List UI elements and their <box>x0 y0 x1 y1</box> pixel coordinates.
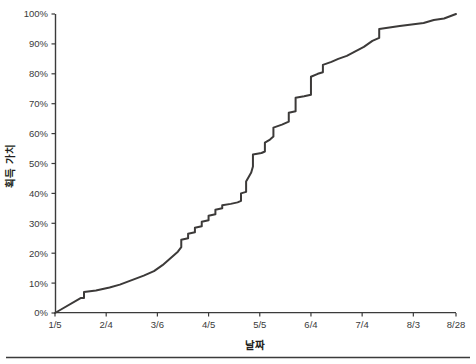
y-tick-label: 60% <box>29 128 49 139</box>
y-axis-tick-labels: 0%10%20%30%40%50%60%70%80%90%100% <box>24 8 49 318</box>
x-tick-label: 8/3 <box>407 319 420 330</box>
chart-canvas: 0%10%20%30%40%50%60%70%80%90%100% 1/52/4… <box>0 0 476 364</box>
y-tick-label: 80% <box>29 68 49 79</box>
earned-value-chart: 0%10%20%30%40%50%60%70%80%90%100% 1/52/4… <box>0 0 476 364</box>
x-tick-label: 8/28 <box>447 319 466 330</box>
x-axis-ticks <box>55 313 456 317</box>
x-axis-group: 1/52/43/64/55/56/47/48/38/28 <box>48 313 465 330</box>
x-tick-label: 5/5 <box>253 319 266 330</box>
y-tick-label: 30% <box>29 218 49 229</box>
x-tick-label: 1/5 <box>48 319 61 330</box>
y-tick-label: 20% <box>29 248 49 259</box>
y-tick-label: 0% <box>34 307 48 318</box>
y-tick-label: 50% <box>29 158 49 169</box>
y-tick-label: 90% <box>29 38 49 49</box>
y-tick-label: 70% <box>29 98 49 109</box>
x-axis-title: 날짜 <box>245 339 265 351</box>
x-axis-tick-labels: 1/52/43/64/55/56/47/48/38/28 <box>48 319 465 330</box>
earned-value-line <box>55 14 456 313</box>
x-tick-label: 4/5 <box>202 319 215 330</box>
y-axis-group: 0%10%20%30%40%50%60%70%80%90%100% <box>24 8 56 318</box>
y-axis-title: 획득 가치 <box>4 144 16 188</box>
y-axis-ticks <box>52 14 56 313</box>
y-tick-label: 40% <box>29 188 49 199</box>
x-tick-label: 3/6 <box>151 319 164 330</box>
x-tick-label: 7/4 <box>356 319 369 330</box>
x-tick-label: 6/4 <box>304 319 317 330</box>
y-tick-label: 100% <box>24 8 49 19</box>
x-tick-label: 2/4 <box>100 319 113 330</box>
y-tick-label: 10% <box>29 278 49 289</box>
